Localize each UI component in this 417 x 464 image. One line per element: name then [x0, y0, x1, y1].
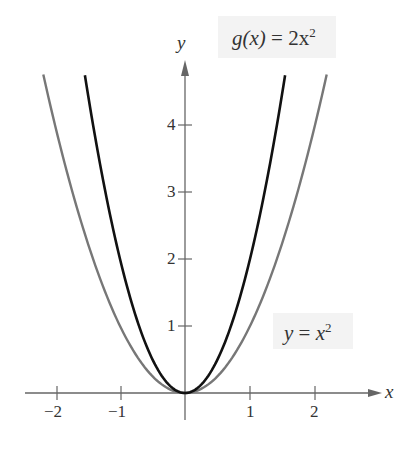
x-axis-label: x	[385, 381, 393, 403]
y-tick-label-1: 1	[167, 316, 176, 336]
x-tick-label-neg2: −2	[44, 402, 62, 422]
x-axis-arrow-icon	[368, 389, 382, 397]
g-label-box: g(x) = 2x2	[218, 16, 336, 58]
y-tick-label-3: 3	[167, 182, 176, 202]
x-tick-label-2: 2	[310, 402, 319, 422]
x-tick-label-1: 1	[246, 402, 255, 422]
x-tick-label-neg1: −1	[108, 402, 126, 422]
y-axis-label: y	[177, 32, 185, 54]
g-function-label: g(x) = 2x2	[232, 25, 316, 51]
chart-canvas	[0, 0, 417, 464]
f-label-box: y = x2	[273, 313, 353, 349]
y-tick-label-4: 4	[167, 115, 176, 135]
f-function-label: y = x2	[284, 320, 332, 346]
y-tick-label-2: 2	[167, 249, 176, 269]
y-axis-arrow-icon	[181, 60, 189, 76]
